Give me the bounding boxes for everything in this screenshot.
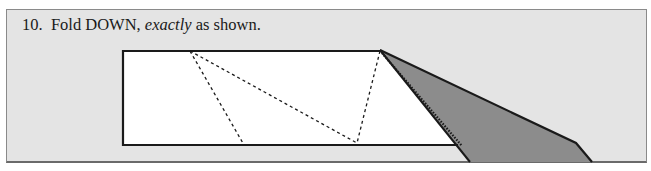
- fold-diagram: [0, 0, 651, 171]
